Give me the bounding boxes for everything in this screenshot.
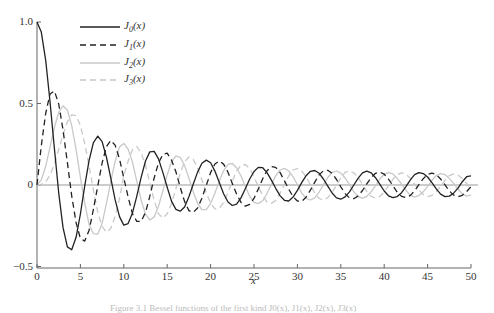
curve-j1 <box>37 91 471 241</box>
x-tick-label: 5 <box>65 270 95 282</box>
curve-j3 <box>37 115 471 232</box>
legend-label-j1: J1(x) <box>124 37 145 52</box>
legend-lines <box>80 27 120 80</box>
x-tick-label: 50 <box>456 270 486 282</box>
x-tick-label: 35 <box>326 270 356 282</box>
legend-label-j3: J3(x) <box>124 72 145 87</box>
x-tick-label: 45 <box>413 270 443 282</box>
curves <box>37 22 471 250</box>
x-axis-title: x <box>251 274 256 286</box>
y-tick-label: 0.5 <box>3 97 33 109</box>
x-tick-label: 10 <box>109 270 139 282</box>
legend-label-j2: J2(x) <box>124 55 145 70</box>
y-tick-label: 0 <box>3 178 33 190</box>
y-tick-label: 1.0 <box>3 15 33 27</box>
x-tick-label: 0 <box>22 270 52 282</box>
x-tick-label: 40 <box>369 270 399 282</box>
x-tick-label: 20 <box>196 270 226 282</box>
curve-j2 <box>37 106 471 234</box>
x-tick-label: 30 <box>282 270 312 282</box>
figure-caption: Figure 3.1 Bessel functions of the first… <box>110 303 356 313</box>
curve-j0 <box>37 22 471 250</box>
x-tick-label: 15 <box>152 270 182 282</box>
legend-label-j0: J0(x) <box>124 19 145 34</box>
